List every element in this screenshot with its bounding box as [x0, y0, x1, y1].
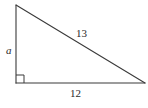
- hypotenuse-label: 13: [76, 27, 88, 39]
- right-triangle-diagram: a 13 12: [0, 0, 148, 108]
- right-angle-marker: [16, 75, 24, 83]
- hypotenuse-edge: [16, 5, 145, 83]
- base-label: 12: [70, 87, 81, 99]
- vertical-leg-label: a: [6, 44, 12, 56]
